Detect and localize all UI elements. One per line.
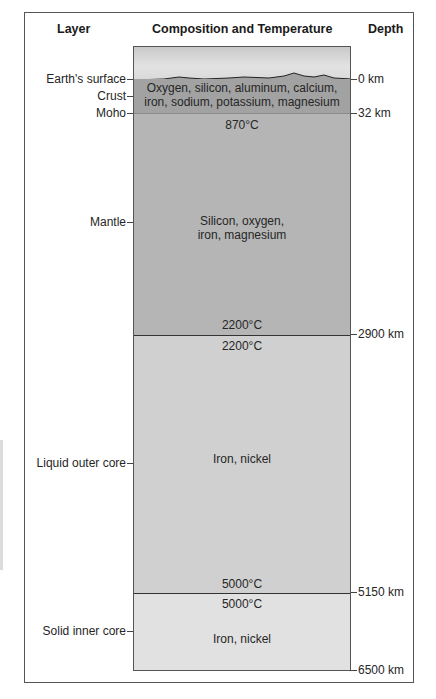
tick-crust (127, 96, 133, 97)
outer-core-composition: Iron, nickel (134, 452, 350, 466)
header-layer: Layer (57, 22, 90, 36)
tick-earths-surface (127, 79, 133, 80)
tick-depth-0 (351, 79, 357, 80)
label-liquid-outer-core: Liquid outer core (37, 456, 126, 470)
earth-layers-column: Oxygen, silicon, aluminum, calcium, iron… (133, 46, 351, 671)
inner-core-band: 5000°C Iron, nickel (134, 593, 350, 671)
crust-composition-line2: iron, sodium, potassium, magnesium (134, 95, 350, 109)
tick-liquid-outer-core (127, 463, 133, 464)
header-composition: Composition and Temperature (152, 22, 332, 36)
tick-moho (127, 113, 133, 114)
inner-core-top-temp: 5000°C (134, 597, 350, 611)
label-mantle: Mantle (90, 215, 126, 229)
mantle-composition-line2: iron, magnesium (134, 228, 350, 242)
outer-core-bottom-temp: 5000°C (134, 577, 350, 591)
label-solid-inner-core: Solid inner core (43, 624, 126, 638)
crust-composition-line1: Oxygen, silicon, aluminum, calcium, (134, 81, 350, 95)
mantle-band: 870°C Silicon, oxygen, iron, magnesium 2… (134, 113, 350, 336)
tick-depth-2900 (351, 334, 357, 335)
mantle-bottom-temp: 2200°C (134, 318, 350, 332)
header-depth: Depth (368, 22, 403, 36)
depth-label-2900: 2900 km (358, 327, 404, 341)
depth-label-0: 0 km (358, 72, 384, 86)
outer-core-band: 2200°C Iron, nickel 5000°C (134, 335, 350, 594)
depth-label-32: 32 km (358, 106, 391, 120)
outer-core-top-temp: 2200°C (134, 339, 350, 353)
edge-artifact-bar (0, 440, 3, 570)
label-crust: Crust (97, 89, 126, 103)
depth-label-5150: 5150 km (358, 585, 404, 599)
mantle-composition-line1: Silicon, oxygen, (134, 214, 350, 228)
tick-mantle (127, 222, 133, 223)
tick-solid-inner-core (127, 631, 133, 632)
label-moho: Moho (96, 106, 126, 120)
inner-core-composition: Iron, nickel (134, 632, 350, 646)
tick-depth-6500 (351, 670, 357, 671)
tick-depth-32 (351, 113, 357, 114)
label-earths-surface: Earth's surface (46, 72, 126, 86)
mantle-top-temp: 870°C (134, 118, 350, 132)
depth-label-6500: 6500 km (358, 663, 404, 677)
tick-depth-5150 (351, 592, 357, 593)
crust-band: Oxygen, silicon, aluminum, calcium, iron… (134, 79, 350, 113)
